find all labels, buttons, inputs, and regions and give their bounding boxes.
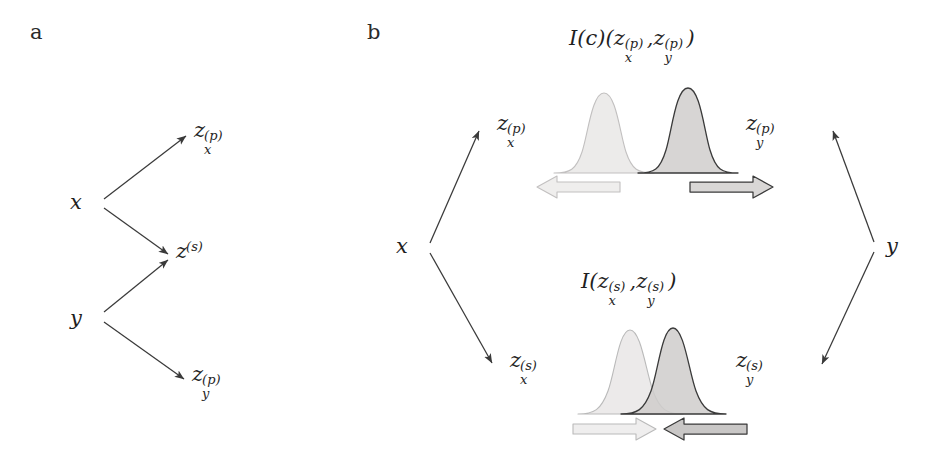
figure-canvas: a b x y z(p)x z(s) z(p)y x y z(p)x z(p)y…	[0, 0, 944, 462]
bottom-arrow-right-pull	[664, 418, 747, 440]
distribution-plots-layer	[0, 0, 944, 462]
top-arrow-left-push	[537, 176, 620, 198]
bottom-arrow-left-pull	[573, 418, 656, 440]
top-curve-light-gaussian	[554, 93, 654, 173]
bottom-distribution-plot	[573, 328, 747, 440]
top-curve-dark-gaussian	[638, 88, 738, 173]
top-arrow-right-push	[690, 176, 773, 198]
top-distribution-plot	[537, 88, 773, 198]
